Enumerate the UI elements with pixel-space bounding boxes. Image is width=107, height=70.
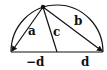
label-a: a	[28, 24, 36, 38]
label-b: b	[74, 14, 82, 28]
label-c: c	[53, 25, 60, 39]
chord-b	[43, 7, 102, 51]
label-d: d	[81, 55, 90, 69]
label-minus-d: −d	[26, 55, 45, 69]
apex-point	[41, 5, 45, 9]
semicircle-diagram: a c b −d d	[0, 0, 107, 70]
